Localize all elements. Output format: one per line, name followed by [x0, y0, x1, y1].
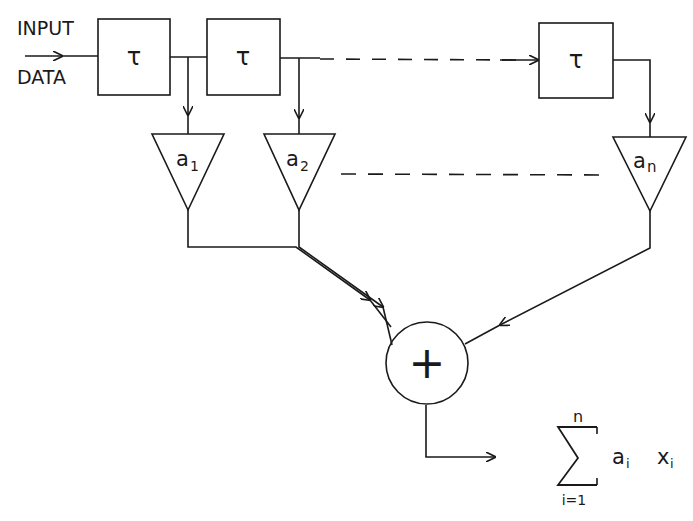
svg-text:2: 2 [300, 158, 309, 174]
input-label-line1: INPUT [17, 17, 74, 39]
continuation-dashes-middle [341, 174, 610, 175]
output-formula: n i=1 a i x i [558, 407, 674, 508]
summing-junction: + [386, 322, 468, 404]
svg-text:a: a [612, 445, 625, 469]
svg-text:i: i [670, 456, 674, 471]
delay-symbol: τ [569, 46, 583, 74]
svg-text:a: a [176, 147, 189, 171]
coefficient-an: a n [613, 137, 686, 211]
fir-filter-diagram: INPUT DATA τ τ τ a 1 a 2 a [0, 0, 693, 521]
plus-icon: + [409, 337, 446, 388]
delay-block-1: τ [98, 19, 170, 95]
svg-text:i: i [626, 456, 630, 471]
delay-block-2: τ [207, 19, 280, 95]
svg-text:a: a [286, 147, 299, 171]
output-arrow [426, 405, 495, 457]
svg-text:a: a [633, 149, 646, 173]
delay-symbol: τ [127, 43, 141, 71]
input-label-line2: DATA [17, 66, 66, 88]
coefficient-a2: a 2 [264, 134, 335, 210]
svg-text:n: n [647, 158, 657, 176]
svg-text:x: x [657, 445, 669, 469]
delay-block-n: τ [539, 23, 613, 98]
svg-text:1: 1 [190, 158, 199, 174]
continuation-dashes-top [320, 59, 525, 60]
svg-text:i=1: i=1 [562, 492, 587, 508]
delay-symbol: τ [236, 43, 250, 71]
svg-text:n: n [573, 407, 583, 426]
coefficient-a1: a 1 [152, 134, 224, 210]
